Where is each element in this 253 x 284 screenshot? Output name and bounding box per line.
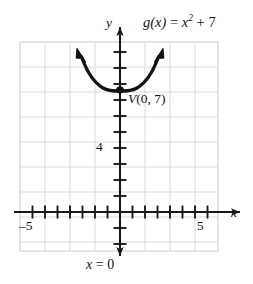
axis-of-symmetry-caption: x = 0 xyxy=(86,258,114,272)
function-label-lhs: g(x) xyxy=(143,14,166,30)
vertex-label: V(0, 7) xyxy=(128,92,166,106)
vertex-label-letter: V xyxy=(128,91,136,106)
x-axis-label: x xyxy=(231,206,237,220)
function-label-plus-term: + 7 xyxy=(197,14,216,30)
y-tick-label-4: 4 xyxy=(96,140,103,154)
caption-equals: = xyxy=(96,257,104,272)
coordinate-plane-svg xyxy=(0,0,253,284)
vertex-label-coords: (0, 7) xyxy=(136,91,165,106)
vertex-point xyxy=(116,87,124,94)
x-tick-label-negative-5: –5 xyxy=(19,219,33,233)
graph-figure: g(x) = x2 + 7 y x V(0, 7) 4 –5 5 x = 0 xyxy=(0,0,253,284)
y-axis-label: y xyxy=(106,16,112,30)
function-label: g(x) = x2 + 7 xyxy=(143,14,216,29)
x-tick-label-5: 5 xyxy=(197,219,204,233)
caption-rhs: 0 xyxy=(107,257,114,272)
function-label-equals-sign: = xyxy=(170,14,178,30)
